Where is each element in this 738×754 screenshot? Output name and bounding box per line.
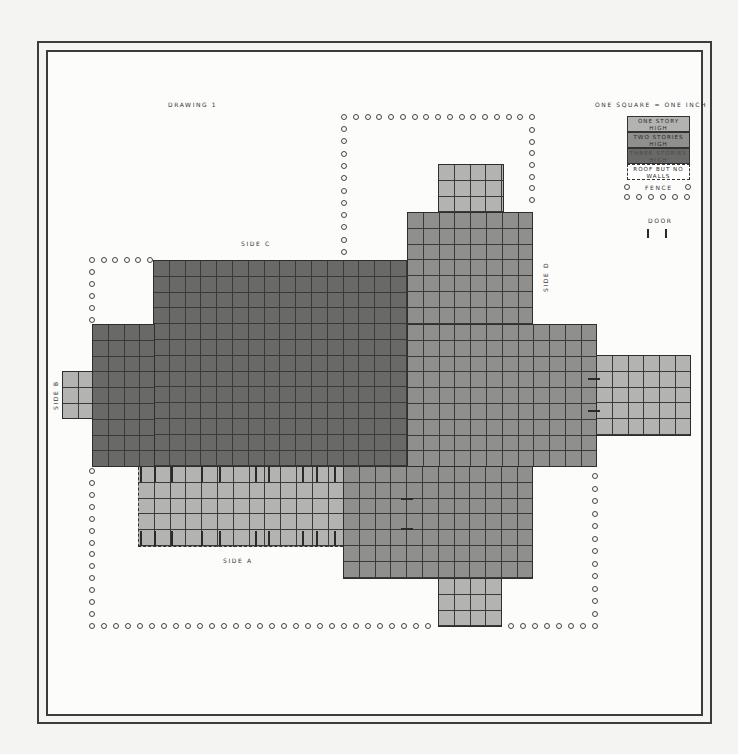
fence-post-icon — [592, 586, 598, 592]
fence-post-icon — [89, 317, 95, 323]
fence-post-icon — [529, 114, 535, 120]
fence-post-icon — [685, 184, 691, 190]
fence-post-icon — [113, 623, 119, 629]
porch-post-icon — [140, 467, 142, 482]
fence-post-icon — [89, 623, 95, 629]
fence-post-icon — [341, 623, 347, 629]
porch-post-icon — [154, 531, 156, 546]
fence-post-icon — [592, 511, 598, 517]
fence-post-icon — [89, 504, 95, 510]
fence-post-icon — [233, 623, 239, 629]
fence-post-icon — [459, 114, 465, 120]
door-icon — [665, 229, 667, 238]
fence-post-icon — [389, 623, 395, 629]
fence-post-icon — [161, 623, 167, 629]
fence-post-icon — [173, 623, 179, 629]
fence-post-icon — [221, 623, 227, 629]
fence-post-icon — [341, 126, 347, 132]
fence-post-icon — [353, 623, 359, 629]
fence-post-icon — [401, 623, 407, 629]
fence-post-icon — [89, 281, 95, 287]
fence-post-icon — [592, 561, 598, 567]
fence-post-icon — [520, 623, 526, 629]
fence-post-icon — [435, 114, 441, 120]
legend-three-stories: THREE STORIES HIGH — [627, 148, 690, 164]
fence-post-icon — [494, 114, 500, 120]
three-story-west — [92, 324, 155, 467]
fence-post-icon — [412, 114, 418, 120]
fence-post-icon — [353, 114, 359, 120]
side-d-label: SIDE D — [542, 262, 549, 292]
porch-post-icon — [171, 531, 173, 546]
fence-post-icon — [245, 623, 251, 629]
fence-post-icon — [341, 188, 347, 194]
fence-post-icon — [281, 623, 287, 629]
fence-post-icon — [592, 486, 598, 492]
three-story-main — [153, 260, 408, 467]
fence-post-icon — [482, 114, 488, 120]
fence-post-icon — [506, 114, 512, 120]
fence-post-icon — [257, 623, 263, 629]
one-story-east — [596, 355, 691, 436]
fence-post-icon — [89, 468, 95, 474]
fence-post-icon — [568, 623, 574, 629]
fence-post-icon — [365, 114, 371, 120]
one-story-south — [438, 578, 502, 627]
two-story-south — [343, 466, 533, 579]
fence-post-icon — [684, 194, 690, 200]
fence-post-icon — [293, 623, 299, 629]
fence-post-icon — [89, 480, 95, 486]
legend-fence-label: FENCE — [645, 184, 673, 191]
legend-roof-no-walls: ROOF BUT NO WALLS — [627, 164, 690, 180]
porch-post-icon — [255, 531, 257, 546]
drawing-title: DRAWING 1 — [168, 101, 217, 108]
fence-post-icon — [447, 114, 453, 120]
fence-post-icon — [89, 257, 95, 263]
fence-post-icon — [544, 623, 550, 629]
porch-post-icon — [334, 467, 336, 482]
door-icon — [588, 378, 600, 380]
door-icon — [647, 229, 649, 238]
roof-no-walls-porch — [138, 467, 343, 547]
porch-post-icon — [255, 467, 257, 482]
fence-post-icon — [101, 257, 107, 263]
side-b-label: SIDE B — [52, 380, 59, 410]
fence-post-icon — [341, 200, 347, 206]
fence-post-icon — [329, 623, 335, 629]
fence-post-icon — [624, 184, 630, 190]
fence-post-icon — [341, 151, 347, 157]
fence-post-icon — [592, 623, 598, 629]
fence-post-icon — [660, 194, 666, 200]
porch-post-icon — [219, 467, 221, 482]
scale-note: ONE SQUARE = ONE INCH — [595, 101, 707, 108]
one-story-side-b — [62, 371, 93, 419]
fence-post-icon — [341, 114, 347, 120]
fence-post-icon — [365, 623, 371, 629]
fence-post-icon — [269, 623, 275, 629]
fence-post-icon — [341, 163, 347, 169]
legend-one-story: ONE STORY HIGH — [627, 116, 690, 132]
fence-post-icon — [125, 623, 131, 629]
porch-post-icon — [171, 467, 173, 482]
porch-post-icon — [201, 531, 203, 546]
side-a-label: SIDE A — [223, 557, 253, 564]
fence-post-icon — [341, 237, 347, 243]
fence-post-icon — [425, 623, 431, 629]
door-icon — [401, 498, 413, 500]
fence-post-icon — [89, 540, 95, 546]
fence-post-icon — [89, 305, 95, 311]
fence-post-icon — [341, 249, 347, 255]
porch-post-icon — [268, 467, 270, 482]
fence-post-icon — [89, 528, 95, 534]
fence-post-icon — [101, 623, 107, 629]
fence-post-icon — [400, 114, 406, 120]
fence-post-icon — [508, 623, 514, 629]
porch-post-icon — [302, 467, 304, 482]
door-icon — [588, 410, 600, 412]
porch-post-icon — [201, 467, 203, 482]
fence-post-icon — [149, 623, 155, 629]
porch-post-icon — [268, 531, 270, 546]
fence-post-icon — [388, 114, 394, 120]
fence-post-icon — [592, 473, 598, 479]
fence-post-icon — [89, 516, 95, 522]
